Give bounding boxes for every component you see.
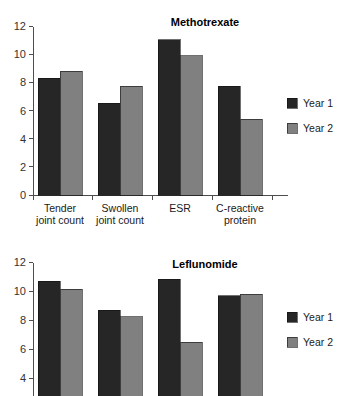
bar-year-2	[180, 56, 202, 195]
chart-title: Leflunomide	[172, 258, 237, 270]
legend-label-year-1: Year 1	[303, 97, 333, 109]
y-tick-label: 4	[20, 133, 26, 145]
bar-year-2	[120, 86, 142, 195]
bar-group	[38, 40, 262, 195]
bar-year-1	[158, 40, 180, 195]
x-category-label: joint count	[95, 214, 144, 226]
bar-year-1	[218, 296, 240, 396]
x-category-label: C-reactive	[216, 202, 264, 214]
bar-year-2	[180, 342, 202, 396]
bar-year-1	[38, 281, 60, 396]
legend-label-year-2: Year 2	[303, 122, 333, 134]
figure-container: Methotrexate 024681012 Tenderjoint count…	[0, 0, 352, 396]
legend-swatch-year-1	[287, 312, 297, 322]
legend-swatch-year-2	[287, 123, 297, 133]
x-category-label: joint count	[35, 214, 84, 226]
bar-year-2	[240, 294, 262, 396]
y-tick-label: 10	[14, 285, 26, 297]
y-tick-label: 6	[20, 343, 26, 355]
y-tick-label: 4	[20, 372, 26, 384]
y-axis: 4681012	[14, 256, 33, 396]
bar-year-1	[158, 279, 180, 396]
y-tick-label: 2	[20, 161, 26, 173]
y-tick-label: 8	[20, 76, 26, 88]
legend: Year 1Year 2	[287, 311, 333, 348]
bar-year-2	[60, 289, 82, 396]
bar-year-2	[60, 71, 82, 195]
x-category-label: Tender	[44, 202, 77, 214]
bar-group	[38, 279, 262, 396]
y-tick-label: 10	[14, 48, 26, 60]
legend-swatch-year-2	[287, 337, 297, 347]
x-axis	[33, 195, 288, 200]
legend-label-year-1: Year 1	[303, 311, 333, 323]
y-tick-label: 12	[14, 20, 26, 32]
bar-year-1	[218, 86, 240, 195]
x-category-label: ESR	[169, 202, 191, 214]
legend-swatch-year-1	[287, 98, 297, 108]
y-axis: 024681012	[14, 20, 33, 201]
bar-year-1	[98, 310, 120, 396]
bar-year-1	[98, 103, 120, 195]
y-tick-label: 6	[20, 105, 26, 117]
x-category-label: Swollen	[102, 202, 139, 214]
bar-year-1	[38, 78, 60, 195]
chart-leflunomide: Leflunomide 4681012 Year 1Year 2	[0, 250, 352, 396]
bar-year-2	[240, 119, 262, 195]
category-labels: Tenderjoint countSwollenjoint countESRC-…	[35, 202, 264, 226]
y-tick-label: 8	[20, 314, 26, 326]
legend-label-year-2: Year 2	[303, 336, 333, 348]
chart-title: Methotrexate	[171, 16, 239, 28]
bar-year-2	[120, 317, 142, 396]
legend: Year 1Year 2	[287, 97, 333, 134]
x-category-label: protein	[224, 214, 256, 226]
y-tick-label: 12	[14, 256, 26, 268]
chart-methotrexate: Methotrexate 024681012 Tenderjoint count…	[0, 0, 352, 250]
y-tick-label: 0	[20, 189, 26, 201]
